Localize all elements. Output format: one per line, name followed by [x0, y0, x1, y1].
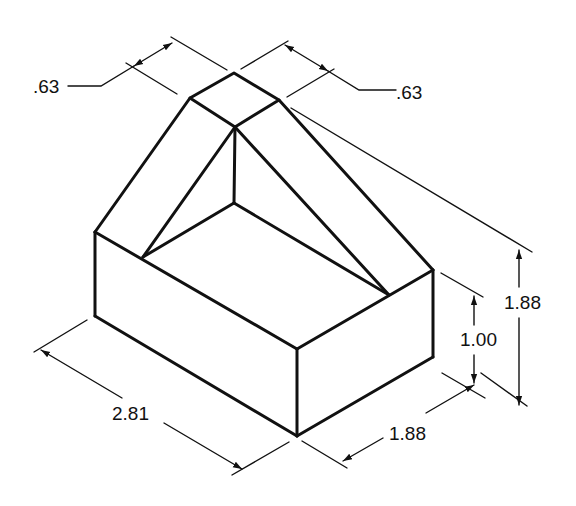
object-geometry — [95, 73, 433, 436]
dimension-depth — [302, 385, 474, 468]
box-top-front-left — [95, 232, 297, 349]
inner-floor-right — [234, 203, 389, 295]
label-base-height: 1.00 — [460, 330, 497, 349]
label-depth: 1.88 — [389, 424, 426, 443]
dimension-top-left-width — [68, 37, 227, 94]
dimension-length — [34, 320, 289, 475]
label-overall-height: 1.88 — [504, 293, 541, 312]
label-top-right-width: .63 — [396, 83, 422, 102]
label-length: 2.81 — [112, 404, 149, 423]
dimension-top-right-width — [241, 41, 396, 97]
inner-floor-left — [143, 203, 234, 257]
isometric-drawing — [0, 0, 576, 506]
label-top-left-width: .63 — [33, 77, 59, 96]
inner-vertical-edge — [234, 127, 235, 203]
ridge-top-face — [190, 73, 279, 127]
